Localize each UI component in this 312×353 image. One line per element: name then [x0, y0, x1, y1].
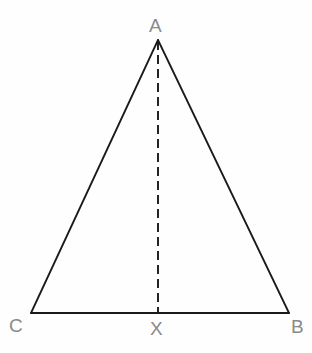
segment-AB [158, 40, 289, 313]
geometry-diagram: A C B X [0, 0, 312, 353]
vertex-label-c: C [9, 316, 23, 335]
vertex-label-b: B [291, 317, 304, 336]
vertex-label-x: X [150, 319, 163, 338]
triangle-figure-svg [0, 0, 312, 353]
segment-AC [31, 40, 158, 313]
vertex-label-a: A [149, 16, 162, 35]
